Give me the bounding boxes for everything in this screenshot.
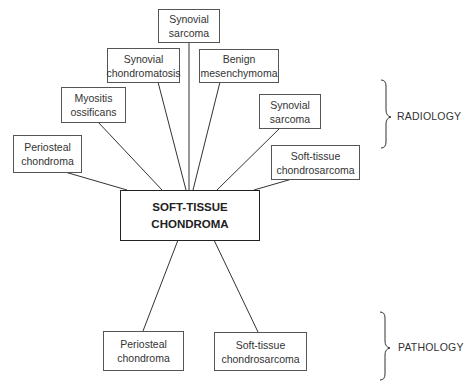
- node-synovial-sarcoma-right: Synovial sarcoma: [259, 94, 321, 129]
- node-line2: ossificans: [70, 105, 116, 119]
- pathology-label: PATHOLOGY: [398, 341, 464, 353]
- node-line2: chondrosarcoma: [221, 352, 299, 366]
- node-line1: Synovial: [270, 98, 310, 112]
- differential-diagnosis-diagram: SOFT-TISSUE CHONDROMA Synovial sarcoma S…: [0, 0, 466, 391]
- node-line1: Benign: [223, 52, 256, 66]
- node-synovial-chondromatosis: Synovial chondromatosis: [107, 48, 180, 83]
- node-line1: Soft-tissue: [291, 149, 341, 163]
- radiology-label: RADIOLOGY: [397, 110, 461, 122]
- node-line1: Myositis: [75, 91, 113, 105]
- node-line1: Periosteal: [24, 140, 71, 154]
- node-line1: Synovial: [169, 12, 209, 26]
- node-line2: sarcoma: [270, 112, 310, 126]
- center-node-soft-tissue-chondroma: SOFT-TISSUE CHONDROMA: [120, 190, 260, 241]
- node-line1: Soft-tissue: [236, 338, 286, 352]
- node-soft-tissue-chondrosarcoma-pathology: Soft-tissue chondrosarcoma: [214, 332, 307, 371]
- node-periosteal-chondroma-radiology: Periosteal chondroma: [13, 135, 82, 173]
- center-line1: SOFT-TISSUE: [152, 199, 227, 216]
- node-myositis-ossificans: Myositis ossificans: [61, 87, 126, 123]
- node-line1: Periosteal: [120, 337, 167, 351]
- node-line2: chondrosarcoma: [276, 163, 354, 177]
- node-line1: Synovial: [124, 52, 164, 66]
- node-line2: mesenchymoma: [200, 66, 277, 80]
- node-line2: chondroma: [117, 351, 170, 365]
- node-line2: chondroma: [21, 154, 74, 168]
- node-soft-tissue-chondrosarcoma-radiology: Soft-tissue chondrosarcoma: [271, 145, 360, 180]
- node-synovial-sarcoma-top: Synovial sarcoma: [158, 9, 220, 43]
- node-periosteal-chondroma-pathology: Periosteal chondroma: [103, 331, 184, 371]
- node-line2: chondromatosis: [106, 66, 180, 80]
- node-line2: sarcoma: [169, 26, 209, 40]
- center-line2: CHONDROMA: [151, 216, 228, 233]
- node-benign-mesenchymoma: Benign mesenchymoma: [199, 49, 279, 83]
